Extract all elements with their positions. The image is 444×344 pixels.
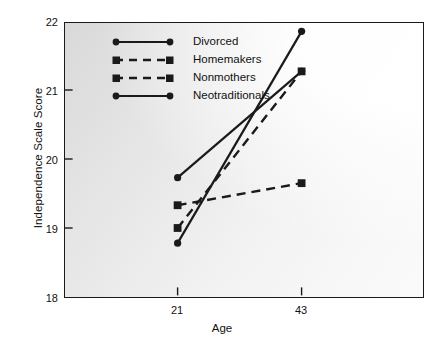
legend-swatch-neotraditionals bbox=[111, 88, 183, 104]
data-series-nonmothers bbox=[174, 180, 306, 210]
legend-line-solid-circle bbox=[111, 88, 183, 104]
data-point-circle bbox=[174, 240, 181, 247]
chart-figure: Independence Scale Score 22 21 20 19 18 … bbox=[0, 0, 444, 344]
legend-item-divorced: Divorced bbox=[111, 33, 321, 51]
legend-line-solid-circle bbox=[111, 34, 183, 50]
data-point-square bbox=[174, 225, 182, 233]
legend-item-nonmothers: Nonmothers bbox=[111, 69, 321, 87]
data-point-circle bbox=[174, 174, 181, 181]
legend-label: Homemakers bbox=[193, 54, 261, 66]
legend-line-dashed-square bbox=[111, 70, 183, 86]
legend-swatch-divorced bbox=[111, 34, 183, 50]
data-point-square bbox=[298, 180, 306, 188]
plot-area: Divorced Homemakers bbox=[64, 22, 424, 298]
legend-label: Divorced bbox=[193, 36, 238, 48]
legend-label: Neotraditionals bbox=[193, 90, 270, 102]
chart-legend: Divorced Homemakers bbox=[111, 33, 321, 105]
legend-item-neotraditionals: Neotraditionals bbox=[111, 87, 321, 105]
legend-swatch-nonmothers bbox=[111, 70, 183, 86]
legend-item-homemakers: Homemakers bbox=[111, 51, 321, 69]
series-line bbox=[178, 184, 302, 206]
x-axis-tick-marks bbox=[178, 288, 302, 296]
data-point-square bbox=[174, 202, 182, 210]
x-tick-label: 21 bbox=[171, 305, 183, 316]
legend-line-dashed-square bbox=[111, 52, 183, 68]
x-axis-title: Age bbox=[0, 322, 444, 334]
legend-label: Nonmothers bbox=[193, 72, 256, 84]
legend-swatch-homemakers bbox=[111, 52, 183, 68]
x-tick-label: 43 bbox=[295, 305, 307, 316]
y-axis-tick-marks bbox=[65, 90, 73, 228]
